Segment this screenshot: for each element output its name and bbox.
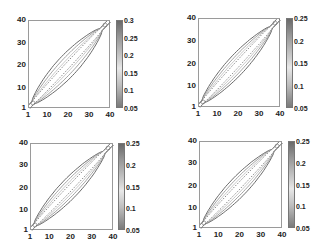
- y-tick-label: 40: [10, 16, 26, 24]
- y-tick-label: 30: [180, 37, 196, 45]
- x-tick-label: 10: [209, 110, 225, 118]
- colorbar-tick-label: 0.05: [126, 227, 140, 234]
- colorbar-tick-label: 0.05: [124, 105, 138, 112]
- plot-area: [28, 20, 110, 108]
- x-tick-label: 1: [22, 233, 38, 241]
- y-tick-label: 20: [12, 184, 28, 192]
- x-tick-label: 30: [251, 110, 267, 118]
- x-tick-label: 1: [20, 111, 36, 119]
- colorbar-tick-label: 0.15: [294, 60, 308, 67]
- colorbar-tick-label: 0.2: [126, 162, 136, 169]
- y-tick-label: 30: [181, 159, 197, 167]
- plot-area: [199, 141, 282, 228]
- colorbar-tick-label: 0.05: [296, 225, 310, 232]
- x-tick-label: 40: [105, 233, 121, 241]
- y-tick-label: 40: [180, 14, 196, 22]
- y-tick-label: 10: [181, 204, 197, 212]
- colorbar: [286, 18, 293, 108]
- colorbar-tick-label: 0.1: [126, 205, 136, 212]
- colorbar-tick-label: 0.15: [296, 182, 310, 189]
- colorbar: [118, 143, 125, 230]
- colorbar-tick-label: 0.2: [124, 52, 134, 59]
- contour-lines: [199, 19, 281, 108]
- y-tick-label: 20: [180, 60, 196, 68]
- y-tick-label: 30: [10, 39, 26, 47]
- colorbar-tick-label: 0.2: [294, 38, 304, 45]
- x-tick-label: 30: [253, 231, 269, 239]
- y-tick-label: 20: [10, 61, 26, 69]
- x-tick-label: 40: [102, 111, 118, 119]
- y-tick-label: 10: [10, 84, 26, 92]
- plot-area: [30, 143, 113, 230]
- x-tick-label: 40: [272, 110, 288, 118]
- x-tick-label: 10: [39, 111, 55, 119]
- colorbar: [116, 20, 123, 108]
- x-tick-label: 1: [190, 110, 206, 118]
- colorbar-tick-label: 0.15: [126, 184, 140, 191]
- colorbar-tick-label: 0.1: [124, 87, 134, 94]
- plot-area: [198, 18, 280, 107]
- colorbar-tick-label: 0.3: [124, 17, 134, 24]
- colorbar-tick-label: 0.25: [126, 140, 140, 147]
- x-tick-label: 1: [191, 231, 207, 239]
- y-tick-label: 40: [12, 139, 28, 147]
- contour-lines: [200, 142, 283, 229]
- x-tick-label: 20: [60, 111, 76, 119]
- x-tick-label: 20: [231, 231, 247, 239]
- contour-lines: [29, 21, 111, 109]
- x-tick-label: 30: [81, 111, 97, 119]
- colorbar-tick-label: 0.05: [294, 105, 308, 112]
- colorbar-tick-label: 0.2: [296, 160, 306, 167]
- colorbar-tick-label: 0.25: [124, 35, 138, 42]
- colorbar-tick-label: 0.25: [294, 15, 308, 22]
- x-tick-label: 30: [84, 233, 100, 241]
- colorbar-tick-label: 0.1: [296, 203, 306, 210]
- x-tick-label: 40: [274, 231, 290, 239]
- colorbar: [288, 141, 295, 228]
- x-tick-label: 20: [230, 110, 246, 118]
- x-tick-label: 10: [41, 233, 57, 241]
- x-tick-label: 10: [210, 231, 226, 239]
- colorbar-tick-label: 0.15: [124, 70, 138, 77]
- y-tick-label: 10: [180, 82, 196, 90]
- contour-lines: [31, 144, 114, 231]
- x-tick-label: 20: [62, 233, 78, 241]
- y-tick-label: 10: [12, 206, 28, 214]
- y-tick-label: 40: [181, 137, 197, 145]
- y-tick-label: 20: [181, 182, 197, 190]
- y-tick-label: 30: [12, 161, 28, 169]
- colorbar-tick-label: 0.1: [294, 83, 304, 90]
- colorbar-tick-label: 0.25: [296, 138, 310, 145]
